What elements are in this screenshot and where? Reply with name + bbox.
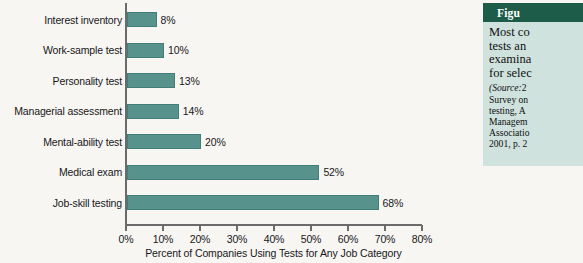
x-axis-title: Percent of Companies Using Tests for Any… [125,247,422,259]
caption-source-line: Survey on [489,94,583,105]
caption-source-line: Managem [489,116,583,127]
bar-value-label: 8% [161,11,176,28]
bar [127,73,175,88]
x-axis-tick-label: 30% [227,233,248,245]
x-axis-tick [199,225,201,231]
x-axis-tick-label: 20% [190,233,211,245]
x-axis-tick-label: 80% [412,233,433,245]
x-axis-tick-label: 10% [153,233,174,245]
caption-source-label: (Source: [489,82,522,93]
caption-source-first-line: (Source:2 [489,82,583,93]
x-axis-tick-label: 0% [119,233,134,245]
x-axis-tick [310,225,312,231]
bar-category-label: Job-skill testing [53,197,122,209]
bar-category-label: Personality test [53,75,122,87]
x-axis-tick-label: 70% [375,233,396,245]
x-axis-tick [384,225,386,231]
bar-value-label: 10% [168,42,189,59]
bar-category-label-wrap: Managerial assessment [0,103,122,120]
caption-source-line: Associatio [489,127,583,138]
y-axis-line [125,3,127,225]
bar [127,43,164,58]
x-axis-tick-label: 60% [338,233,359,245]
bar-row: Mental-ability test20% [0,133,340,150]
bar [127,165,319,180]
bar-category-label-wrap: Mental-ability test [0,133,122,150]
bar-value-label: 20% [205,133,226,150]
bar-category-label-wrap: Interest inventory [0,11,122,28]
bar-category-label: Mental-ability test [43,136,122,148]
bar [127,104,179,119]
x-axis-tick [347,225,349,231]
bar-row: Personality test13% [0,72,340,89]
caption-source-line: 2001, p. 2 [489,138,583,149]
bar-value-label: 13% [179,72,200,89]
bar-category-label: Work-sample test [43,44,122,56]
bar-category-label-wrap: Medical exam [0,164,122,181]
x-axis-tick [236,225,238,231]
bar-row: Managerial assessment14% [0,103,340,120]
x-axis-tick [162,225,164,231]
bar-category-label-wrap: Job-skill testing [0,194,122,211]
bar-chart: Interest inventory8%Work-sample test10%P… [0,0,340,263]
x-axis-tick [273,225,275,231]
bar-row: Work-sample test10% [0,42,340,59]
bar [127,134,201,149]
figure-caption-panel: Figu Most co tests an examina for selec … [483,3,583,166]
bar [127,195,379,210]
bar-category-label: Managerial assessment [14,105,122,117]
bar-category-label-wrap: Personality test [0,72,122,89]
bar-category-label: Medical exam [59,166,122,178]
caption-line: for selec [489,67,583,81]
bar [127,12,157,27]
bar-category-label-wrap: Work-sample test [0,42,122,59]
bar-category-label: Interest inventory [44,14,122,26]
x-axis-tick-label: 40% [264,233,285,245]
caption-line: examina [489,53,583,67]
bar-row: Job-skill testing68% [0,194,340,211]
figure-caption-header-label: Figu [497,7,520,19]
x-axis-tick [421,225,423,231]
x-axis-tick-label: 50% [301,233,322,245]
caption-source-line: testing, A [489,105,583,116]
caption-source-block: (Source:2 Survey on testing, A Managem A… [489,82,583,149]
bar-row: Interest inventory8% [0,11,340,28]
bar-value-label: 14% [183,103,204,120]
caption-line: tests an [489,40,583,54]
bar-value-label: 52% [323,164,344,181]
figure-caption-header: Figu [483,3,583,22]
x-axis-tick [125,225,127,231]
figure-caption-body: Most co tests an examina for selec (Sour… [483,22,583,150]
caption-source-year: 2 [522,82,527,93]
bar-value-label: 68% [383,194,404,211]
bar-row: Medical exam52% [0,164,340,181]
caption-line: Most co [489,26,583,40]
